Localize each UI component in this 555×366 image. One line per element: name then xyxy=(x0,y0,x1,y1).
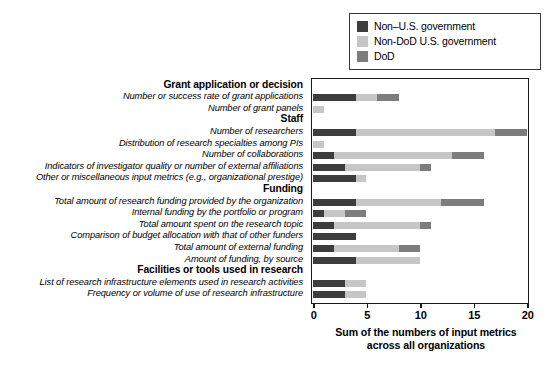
category-label: Total amount spent on the research topic xyxy=(139,219,303,230)
legend-item-label: Non–U.S. government xyxy=(374,21,475,32)
x-axis-title-line2: across all organizations xyxy=(311,339,541,352)
bar-segment xyxy=(441,199,484,206)
bar xyxy=(313,245,420,252)
bar-segment xyxy=(313,257,356,264)
bar-segment xyxy=(377,94,398,101)
category-label: Total amount of external funding xyxy=(174,242,303,253)
bar xyxy=(313,291,366,298)
category-group-label: Facilities or tools used in research xyxy=(137,264,303,275)
bar xyxy=(313,257,420,264)
x-axis-tick-mark xyxy=(420,304,422,308)
legend-item-label: DoD xyxy=(374,51,395,62)
x-axis-tick-mark xyxy=(527,304,529,308)
bar-segment xyxy=(345,164,420,171)
category-label: Other or miscellaneous input metrics (e.… xyxy=(36,172,303,183)
bar-segment xyxy=(313,199,356,206)
x-axis-tick-mark xyxy=(474,304,476,308)
x-axis-title: Sum of the numbers of input metrics acro… xyxy=(311,326,541,352)
category-group-label: Grant application or decision xyxy=(163,79,303,90)
bar-segment xyxy=(356,257,420,264)
bar-segment xyxy=(452,152,484,159)
legend-item: Non–U.S. government xyxy=(357,19,533,34)
category-label: Frequency or volume of use of research i… xyxy=(87,288,303,299)
x-axis-title-line1: Sum of the numbers of input metrics xyxy=(311,326,541,339)
category-label: Distribution of research specialties amo… xyxy=(119,138,303,149)
legend-swatch xyxy=(357,51,368,62)
bar xyxy=(313,164,431,171)
bar-segment xyxy=(345,280,366,287)
x-axis-tick-label: 15 xyxy=(468,309,480,321)
x-axis-tick-label: 20 xyxy=(522,309,534,321)
category-label: Number of researchers xyxy=(210,126,303,137)
bar-segment xyxy=(356,94,377,101)
x-axis-tick-label: 5 xyxy=(364,309,370,321)
bar-segment xyxy=(334,222,420,229)
bar-segment xyxy=(420,222,431,229)
category-label: List of research infrastructure elements… xyxy=(40,277,303,288)
bar-segment xyxy=(313,94,356,101)
bar-segment xyxy=(313,175,356,182)
category-group-label: Funding xyxy=(263,183,303,194)
bar xyxy=(313,175,366,182)
category-label: Internal funding by the portfolio or pro… xyxy=(132,207,303,218)
bar-segment xyxy=(399,245,420,252)
bar-segment xyxy=(356,175,367,182)
bar-segment xyxy=(334,152,452,159)
bars-layer xyxy=(313,79,527,303)
legend-item: DoD xyxy=(357,49,533,64)
category-label: Total amount of research funding provide… xyxy=(54,196,303,207)
bar xyxy=(313,199,484,206)
x-axis-tick-label: 10 xyxy=(415,309,427,321)
bar-segment xyxy=(324,210,345,217)
category-label: Number of collaborations xyxy=(202,149,303,160)
bar-segment xyxy=(356,199,442,206)
bar-segment xyxy=(420,164,431,171)
category-label: Amount of funding, by source xyxy=(185,254,303,265)
bar-segment xyxy=(313,152,334,159)
bar-segment xyxy=(356,129,495,136)
category-group-label: Staff xyxy=(281,113,303,124)
bar-segment xyxy=(313,291,345,298)
bar-segment xyxy=(334,245,398,252)
bar-segment xyxy=(495,129,527,136)
x-axis: 05101520 xyxy=(311,304,529,324)
bar-segment xyxy=(313,141,324,148)
bar xyxy=(313,222,431,229)
bar-segment xyxy=(313,222,334,229)
bar-segment xyxy=(313,233,356,240)
bar xyxy=(313,129,527,136)
bar-segment xyxy=(345,210,366,217)
category-label: Indicators of investigator quality or nu… xyxy=(45,161,303,172)
bar xyxy=(313,106,324,113)
chart-legend: Non–U.S. governmentNon-DoD U.S. governme… xyxy=(349,13,541,70)
category-labels: Grant application or decisionNumber or s… xyxy=(0,78,307,304)
x-axis-tick-label: 0 xyxy=(311,309,317,321)
bar-segment xyxy=(313,164,345,171)
x-axis-tick-mark xyxy=(313,304,315,308)
legend-swatch xyxy=(357,36,368,47)
legend-item: Non-DoD U.S. government xyxy=(357,34,533,49)
category-label: Number or success rate of grant applicat… xyxy=(123,91,303,102)
legend-item-label: Non-DoD U.S. government xyxy=(374,36,496,47)
legend-swatch xyxy=(357,21,368,32)
bar xyxy=(313,141,324,148)
bar xyxy=(313,210,366,217)
bar xyxy=(313,233,356,240)
bar-segment xyxy=(313,245,334,252)
bar xyxy=(313,94,399,101)
bar xyxy=(313,152,484,159)
category-label: Comparison of budget allocation with tha… xyxy=(71,230,303,241)
bar-segment xyxy=(313,280,345,287)
x-axis-tick-mark xyxy=(367,304,369,308)
bar-segment xyxy=(345,291,366,298)
category-label: Number of grant panels xyxy=(208,103,303,114)
bar-segment xyxy=(313,210,324,217)
bar xyxy=(313,280,366,287)
bar-segment xyxy=(313,106,324,113)
bar-segment xyxy=(313,129,356,136)
